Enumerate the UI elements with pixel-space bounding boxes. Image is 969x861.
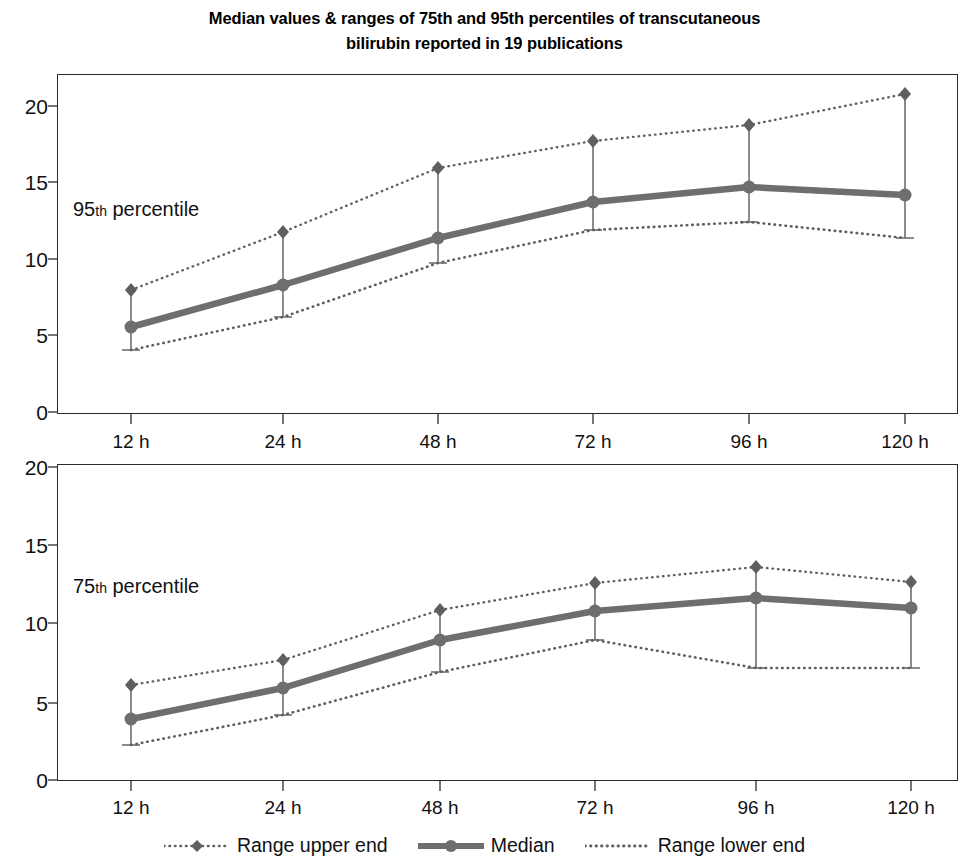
panel-75-series-median	[131, 598, 911, 719]
legend-item-range-lower-end: Range lower end	[585, 834, 805, 857]
panel-75-range-bars	[131, 567, 911, 745]
legend-item-range-upper-end: Range upper end	[164, 834, 388, 857]
xtick-75-96h: 96 h	[706, 798, 806, 817]
chart-legend: Range upper end Median Range lower end	[0, 834, 969, 857]
panel-75th-percentile: 20 15 10 5 0 75th percentile	[0, 0, 969, 861]
panel-75-ytick-marks	[48, 467, 57, 780]
legend-swatch-dotted-icon	[585, 838, 651, 854]
legend-swatch-dotted-diamond-icon	[164, 838, 230, 854]
xtick-75-12h: 12 h	[81, 798, 181, 817]
legend-item-median: Median	[418, 834, 555, 857]
xtick-75-72h: 72 h	[545, 798, 645, 817]
legend-swatch-solid-circle-icon	[418, 838, 484, 854]
xtick-75-120h: 120 h	[861, 798, 961, 817]
xtick-75-48h: 48 h	[390, 798, 490, 817]
legend-label-median: Median	[491, 834, 555, 857]
panel-75-xtick-marks	[131, 781, 911, 791]
legend-label-range-upper-end: Range upper end	[237, 834, 388, 857]
xtick-75-24h: 24 h	[233, 798, 333, 817]
chart-figure: Median values & ranges of 75th and 95th …	[0, 0, 969, 861]
panel-75-median-markers	[125, 592, 918, 726]
legend-label-range-lower-end: Range lower end	[658, 834, 805, 857]
panel-75-plot-svg	[0, 0, 969, 861]
